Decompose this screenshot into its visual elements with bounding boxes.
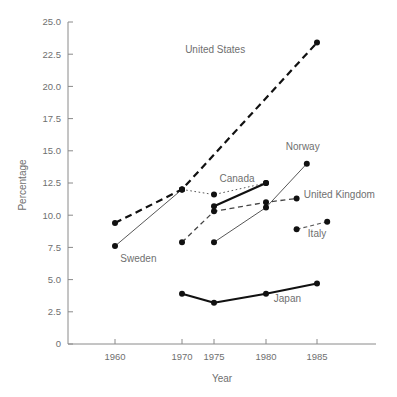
data-point — [211, 192, 217, 198]
y-tick-label: 12.5 — [43, 177, 62, 188]
data-point — [112, 243, 118, 249]
chart-container: 02.55.07.510.012.515.017.520.022.525.0 1… — [0, 0, 397, 397]
x-tick-label: 1960 — [104, 351, 125, 362]
data-point — [263, 291, 269, 297]
y-axis-title: Percentage — [17, 159, 28, 211]
series-label-italy: Italy — [308, 228, 326, 239]
series-label-canada: Canada — [220, 173, 255, 184]
y-tick-label: 22.5 — [43, 49, 62, 60]
series-label-norway: Norway — [286, 141, 320, 152]
x-tick-label: 1985 — [306, 351, 327, 362]
x-tick-label: 1970 — [171, 351, 192, 362]
series-label-sweden: Sweden — [120, 253, 156, 264]
data-point — [263, 199, 269, 205]
y-tick-label: 2.5 — [48, 306, 61, 317]
data-point — [263, 180, 269, 186]
data-point — [304, 161, 310, 167]
x-tick-label: 1980 — [255, 351, 276, 362]
data-point — [179, 186, 185, 192]
data-point — [112, 220, 118, 226]
data-point — [314, 40, 320, 46]
series-label-japan: Japan — [274, 293, 301, 304]
data-point — [211, 300, 217, 306]
line-chart: 02.55.07.510.012.515.017.520.022.525.0 1… — [0, 0, 397, 397]
data-point — [294, 195, 300, 201]
data-point — [179, 239, 185, 245]
y-tick-label: 25.0 — [43, 16, 62, 27]
data-point — [294, 226, 300, 232]
y-tick-label: 7.5 — [48, 242, 61, 253]
x-axis-title: Year — [212, 373, 233, 384]
y-tick-label: 20.0 — [43, 81, 62, 92]
series-label-united-states: United States — [185, 44, 245, 55]
data-point — [179, 291, 185, 297]
data-point — [211, 208, 217, 214]
y-tick-label: 17.5 — [43, 113, 62, 124]
y-tick-label: 5.0 — [48, 274, 61, 285]
y-tick-label: 0 — [56, 338, 61, 349]
data-point — [314, 280, 320, 286]
data-point — [324, 219, 330, 225]
data-point — [211, 203, 217, 209]
y-tick-label: 10.0 — [43, 210, 62, 221]
x-tick-label: 1975 — [203, 351, 224, 362]
data-point — [211, 239, 217, 245]
series-label-united-kingdom: United Kingdom — [304, 189, 375, 200]
y-tick-label: 15.0 — [43, 145, 62, 156]
data-point — [263, 204, 269, 210]
